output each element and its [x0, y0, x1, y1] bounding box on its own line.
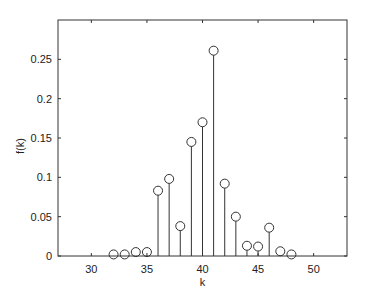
stem-point [154, 186, 163, 256]
stem-marker-circle [276, 247, 285, 256]
stem-marker-circle [209, 46, 218, 55]
stem-point [242, 241, 251, 256]
x-tick-label: 50 [308, 263, 320, 275]
x-tick-label: 45 [252, 263, 264, 275]
y-tick-label: 0.1 [37, 171, 52, 183]
stem-point [131, 248, 140, 257]
stem-marker-circle [165, 174, 174, 183]
stem-marker-circle [187, 137, 196, 146]
stem-point [109, 250, 118, 259]
stem-point [176, 222, 185, 256]
stem-point [187, 137, 196, 256]
stem-marker-circle [176, 222, 185, 231]
x-tick-label: 35 [141, 263, 153, 275]
stem-marker-circle [109, 250, 118, 259]
stem-marker-circle [131, 248, 140, 257]
y-tick-label: 0.2 [37, 93, 52, 105]
stem-marker-circle [220, 179, 229, 188]
stem-marker-circle [154, 186, 163, 195]
stem-marker-circle [198, 118, 207, 127]
stem-point [287, 250, 296, 259]
stem-marker-circle [120, 250, 129, 259]
y-tick-label: 0.25 [31, 53, 52, 65]
stem-marker-circle [287, 250, 296, 259]
y-tick-label: 0 [46, 250, 52, 262]
x-tick-label: 30 [85, 263, 97, 275]
stem-point [120, 250, 129, 259]
x-axis-label: k [200, 276, 206, 288]
stem-point [220, 179, 229, 256]
stem-point [198, 118, 207, 256]
y-axis-ticks: 00.050.10.150.20.25 [31, 53, 347, 262]
stem-series [109, 46, 296, 259]
stem-marker-circle [231, 212, 240, 221]
y-tick-label: 0.05 [31, 211, 52, 223]
stem-point [209, 46, 218, 256]
stem-marker-circle [242, 241, 251, 250]
stem-point [265, 223, 274, 256]
stem-point [231, 212, 240, 256]
stem-marker-circle [254, 242, 263, 251]
stem-plot: 3035404550 00.050.10.150.20.25 k f(k) [0, 0, 366, 300]
stem-marker-circle [265, 223, 274, 232]
stem-point [165, 174, 174, 256]
y-tick-label: 0.15 [31, 132, 52, 144]
stem-point [276, 247, 285, 256]
x-tick-label: 40 [196, 263, 208, 275]
y-axis-label: f(k) [14, 138, 26, 154]
